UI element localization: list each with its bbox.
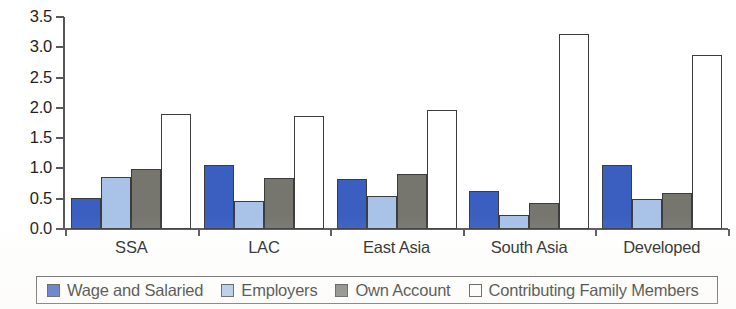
y-axis-tick bbox=[56, 137, 64, 139]
y-axis-tick-label: 2.5 bbox=[2, 69, 52, 85]
bar-chart-figure: 0.00.51.01.52.02.53.03.5 SSALACEast Asia… bbox=[0, 0, 736, 309]
x-axis-label-ssa: SSA bbox=[65, 238, 198, 256]
bar-south-asia-employers bbox=[499, 215, 529, 229]
x-axis-tick bbox=[595, 229, 597, 236]
y-axis-tick-label: 0.0 bbox=[2, 220, 52, 236]
legend-swatch-icon bbox=[221, 284, 234, 297]
y-axis-tick-label: 3.5 bbox=[2, 8, 52, 24]
bar-lac-own-account bbox=[264, 178, 294, 229]
y-axis-tick bbox=[56, 16, 64, 18]
plot-area: 0.00.51.01.52.02.53.03.5 SSALACEast Asia… bbox=[0, 0, 736, 268]
legend-label: Wage and Salaried bbox=[67, 281, 203, 299]
legend-swatch-icon bbox=[469, 284, 482, 297]
legend-item-wage-and-salaried[interactable]: Wage and Salaried bbox=[47, 281, 203, 299]
x-axis-tick bbox=[330, 229, 332, 236]
y-axis-tick-label: 2.0 bbox=[2, 99, 52, 115]
x-axis-tick bbox=[463, 229, 465, 236]
y-axis-tick bbox=[56, 46, 64, 48]
bar-lac-wage-and-salaried bbox=[204, 165, 234, 229]
y-axis-tick bbox=[56, 107, 64, 109]
y-axis-tick-label: 0.5 bbox=[2, 190, 52, 206]
x-axis-label-lac: LAC bbox=[198, 238, 331, 256]
y-axis-tick bbox=[56, 198, 64, 200]
y-axis-tick bbox=[56, 228, 64, 230]
y-axis-tick-label: 3.0 bbox=[2, 38, 52, 54]
bar-ssa-wage-and-salaried bbox=[71, 198, 101, 229]
legend-item-own-account[interactable]: Own Account bbox=[335, 281, 450, 299]
legend-swatch-icon bbox=[335, 284, 348, 297]
x-axis-tick bbox=[728, 229, 730, 236]
y-axis-tick-label: 1.0 bbox=[2, 159, 52, 175]
legend-label: Contributing Family Members bbox=[489, 281, 699, 299]
bar-south-asia-wage-and-salaried bbox=[469, 191, 499, 229]
x-axis-tick bbox=[65, 229, 67, 236]
bar-ssa-contributing-family-members bbox=[161, 114, 191, 229]
bar-developed-contributing-family-members bbox=[692, 55, 722, 229]
bar-east-asia-wage-and-salaried bbox=[337, 179, 367, 229]
bar-lac-contributing-family-members bbox=[294, 116, 324, 229]
bar-east-asia-contributing-family-members bbox=[427, 110, 457, 229]
legend-swatch-icon bbox=[47, 284, 60, 297]
bar-developed-employers bbox=[632, 199, 662, 229]
x-axis-label-developed: Developed bbox=[595, 238, 728, 256]
bar-east-asia-own-account bbox=[397, 174, 427, 229]
bar-ssa-employers bbox=[101, 177, 131, 229]
y-axis-tick-label: 1.5 bbox=[2, 129, 52, 145]
bar-ssa-own-account bbox=[131, 169, 161, 229]
bar-developed-own-account bbox=[662, 193, 692, 229]
bar-developed-wage-and-salaried bbox=[602, 165, 632, 229]
x-axis-label-east-asia: East Asia bbox=[330, 238, 463, 256]
bar-south-asia-own-account bbox=[529, 203, 559, 229]
bar-east-asia-employers bbox=[367, 196, 397, 229]
x-axis-label-south-asia: South Asia bbox=[463, 238, 596, 256]
chart-legend: Wage and SalariedEmployersOwn AccountCon… bbox=[36, 276, 718, 304]
bar-south-asia-contributing-family-members bbox=[559, 34, 589, 229]
legend-label: Own Account bbox=[355, 281, 450, 299]
x-axis-tick bbox=[198, 229, 200, 236]
bar-lac-employers bbox=[234, 201, 264, 229]
y-axis-tick bbox=[56, 167, 64, 169]
legend-item-contributing-family-members[interactable]: Contributing Family Members bbox=[469, 281, 699, 299]
y-axis-tick bbox=[56, 77, 64, 79]
legend-label: Employers bbox=[241, 281, 317, 299]
legend-item-employers[interactable]: Employers bbox=[221, 281, 317, 299]
